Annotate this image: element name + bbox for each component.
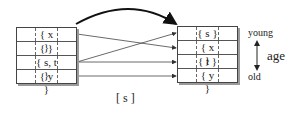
left-row: { x } bbox=[17, 28, 76, 42]
right-cell: { y } bbox=[196, 69, 219, 82]
caption: [ s ] bbox=[116, 91, 135, 106]
left-row: { s, t } bbox=[17, 56, 76, 70]
left-table: { x } { } { s, t } { y } bbox=[16, 27, 77, 84]
right-row: { y } bbox=[178, 69, 237, 82]
left-cell: { s, t } bbox=[35, 56, 58, 69]
arrow-st-to-s bbox=[77, 33, 176, 62]
right-row: { x } bbox=[178, 41, 237, 55]
left-row: { } bbox=[17, 42, 76, 56]
arrow-x-to-x bbox=[77, 34, 176, 48]
overall-mapping-arrow bbox=[76, 9, 176, 24]
age-arrow-up-icon bbox=[254, 40, 260, 46]
right-cell: { t } bbox=[196, 55, 219, 68]
right-cell: { x } bbox=[196, 41, 219, 54]
right-row: { s } bbox=[178, 27, 237, 41]
left-row: { y } bbox=[17, 70, 76, 83]
old-label: old bbox=[248, 71, 261, 82]
age-label: age bbox=[267, 48, 285, 64]
left-cell: { y } bbox=[35, 70, 58, 83]
right-table: { s } { x } { t } { y } bbox=[177, 26, 238, 83]
left-cell: { } bbox=[35, 42, 58, 55]
left-cell: { x } bbox=[35, 28, 58, 41]
right-cell: { s } bbox=[196, 27, 219, 40]
right-row: { t } bbox=[178, 55, 237, 69]
young-label: young bbox=[248, 27, 273, 38]
